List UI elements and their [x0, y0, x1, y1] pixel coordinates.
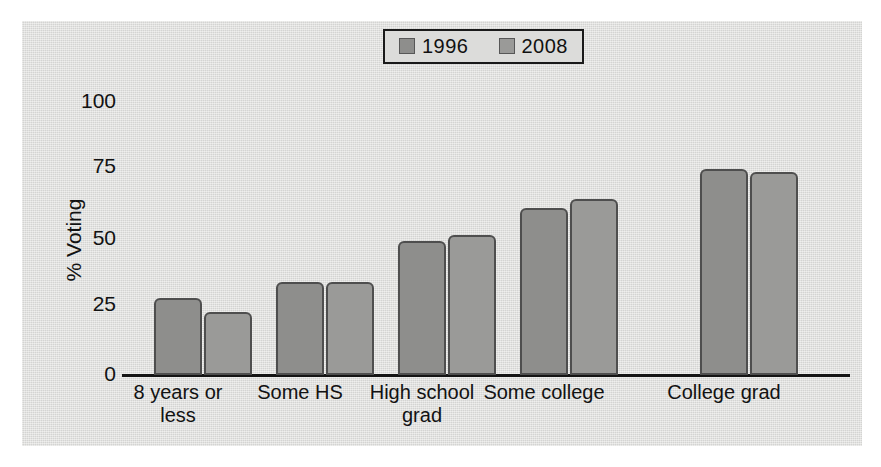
bar-2008-college-grad — [750, 172, 798, 375]
x-tick-line1: College grad — [639, 381, 809, 404]
bar-2008-high-school-grad — [448, 235, 496, 375]
y-axis-label: % Voting — [62, 180, 86, 300]
bar-1996-some-hs — [276, 282, 324, 375]
y-tick-75: 75 — [58, 155, 116, 176]
bar-2008-some-hs — [326, 282, 374, 375]
bar-2008-8-years-or-less — [204, 312, 252, 375]
bar-2008-some-college — [570, 199, 618, 375]
bar-chart-figure: 1996 2008 100 75 50 25 0 % Voting — [0, 0, 881, 467]
plot-area: 100 75 50 25 0 % Voting — [0, 0, 881, 467]
x-tick-line2: less — [93, 404, 263, 427]
bar-1996-college-grad — [700, 169, 748, 375]
bar-1996-some-college — [520, 208, 568, 375]
y-tick-100: 100 — [58, 90, 116, 111]
x-tick-some-college: Some college — [459, 381, 629, 404]
x-tick-line2: grad — [337, 404, 507, 427]
x-tick-line1: Some college — [459, 381, 629, 404]
x-tick-college-grad: College grad — [639, 381, 809, 404]
bar-1996-high-school-grad — [398, 241, 446, 376]
bar-1996-8-years-or-less — [154, 298, 202, 375]
